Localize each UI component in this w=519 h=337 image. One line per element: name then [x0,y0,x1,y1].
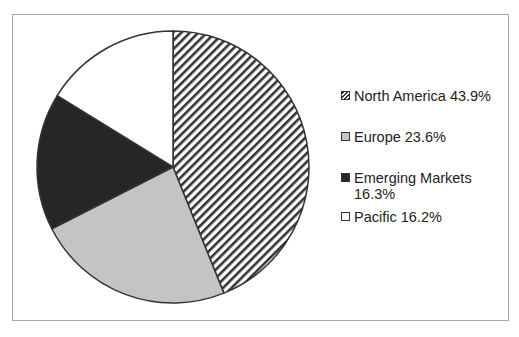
gray-swatch-icon [341,132,350,141]
black-swatch-icon [341,173,350,182]
white-swatch-icon [341,212,350,221]
legend-label: Pacific 16.2% [354,209,442,225]
legend-label: Europe 23.6% [354,129,446,145]
legend-label: North America 43.9% [354,88,491,104]
pie-chart [0,0,519,337]
legend-label: Emerging Markets [354,170,472,186]
legend-label-cont: 16.3% [354,186,395,202]
hatch-swatch-icon [341,91,350,100]
